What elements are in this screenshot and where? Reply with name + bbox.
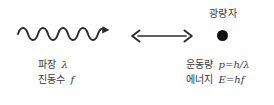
wavelength-term: 파장 <box>38 59 56 70</box>
list-item: 에너지E=hf <box>186 72 250 87</box>
list-item: 운동량p=h/λ <box>186 57 250 72</box>
particle-properties-labels: 운동량p=h/λ 에너지E=hf <box>186 57 250 87</box>
wavelength-symbol: λ <box>56 59 67 70</box>
momentum-term: 운동량 <box>186 59 214 70</box>
momentum-expression: h/λ <box>233 59 249 70</box>
wave-particle-duality-figure: 광량자 파장λ 진동수f 운동량p=h/λ 에너지E=hf <box>0 0 274 105</box>
photon-label: 광량자 <box>196 8 250 20</box>
momentum-formula: p=h/λ <box>214 59 250 70</box>
list-item: 파장λ <box>38 57 74 72</box>
energy-term: 에너지 <box>186 74 214 85</box>
frequency-symbol: f <box>66 74 75 85</box>
energy-formula: E=hf <box>214 74 245 85</box>
wave-properties-labels: 파장λ 진동수f <box>38 57 74 87</box>
frequency-term: 진동수 <box>38 74 66 85</box>
photon-dot-icon <box>217 30 228 41</box>
list-item: 진동수f <box>38 72 74 87</box>
energy-symbol: E <box>219 74 226 85</box>
sine-wave-with-arrow-icon <box>16 22 116 46</box>
double-headed-arrow-icon <box>131 27 193 45</box>
energy-expression: hf <box>234 74 244 85</box>
